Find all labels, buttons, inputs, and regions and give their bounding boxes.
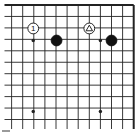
move-number: 1 — [31, 24, 36, 33]
star-point — [99, 110, 102, 113]
white-stone — [84, 23, 95, 34]
stones: 1 — [28, 23, 117, 46]
star-point — [99, 39, 102, 42]
star-point — [32, 110, 35, 113]
black-stone — [106, 35, 117, 46]
black-stone — [51, 35, 62, 46]
black-stone-disc — [106, 35, 117, 46]
board-grid — [5, 5, 134, 129]
go-board: 1 — [0, 0, 136, 136]
white-stone: 1 — [28, 23, 39, 34]
caption-fragment — [2, 130, 10, 132]
star-point — [32, 39, 35, 42]
black-stone-disc — [51, 35, 62, 46]
